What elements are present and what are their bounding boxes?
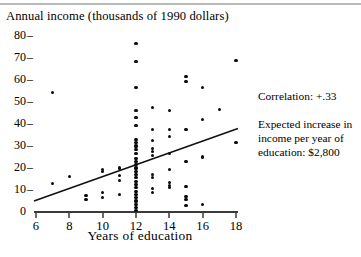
scatter-point [51, 91, 54, 94]
scatter-point [134, 42, 137, 45]
y-tick-dash: – [27, 72, 33, 87]
scatter-point [184, 160, 187, 163]
scatter-point [134, 152, 137, 155]
scatter-point [134, 60, 137, 63]
y-tick-dash: – [27, 28, 33, 43]
scatter-point [184, 128, 187, 131]
scatter-point [168, 168, 171, 171]
y-tick-label: 50 [2, 94, 26, 109]
y-tick-label: 10 [2, 182, 26, 197]
annotation-expected-increase: Expected increase in income per year of … [258, 117, 358, 160]
scatter-point [101, 191, 104, 194]
scatter-point [134, 124, 137, 127]
x-tick-label: 6 [24, 219, 48, 234]
y-tick-label: 70 [2, 50, 26, 65]
scatter-point [201, 155, 204, 158]
y-tick-dash: – [27, 160, 33, 175]
scatter-point [118, 166, 121, 169]
y-tick-label: 30 [2, 138, 26, 153]
x-axis-label: Years of education [60, 228, 220, 244]
scatter-point [134, 148, 137, 151]
scatter-point [134, 116, 137, 119]
y-tick-label: 40 [2, 116, 26, 131]
scatter-point [184, 75, 187, 78]
y-tick-dash: – [27, 94, 33, 109]
figure-scatter-plot: Annual income (thousands of 1990 dollars… [0, 0, 361, 257]
scatter-point [168, 128, 171, 131]
scatter-point [134, 209, 137, 212]
y-tick-dash: – [27, 138, 33, 153]
scatter-point [184, 185, 187, 188]
scatter-point [134, 86, 137, 89]
scatter-point [234, 59, 237, 62]
y-tick-label: 60 [2, 72, 26, 87]
x-tick-label: 18 [224, 219, 248, 234]
scatter-point [234, 141, 237, 144]
scatter-point [168, 135, 171, 138]
y-tick-label: 80 [2, 28, 26, 43]
scatter-point [118, 179, 121, 182]
y-tick-dash: – [27, 182, 33, 197]
annotation-correlation: Correlation: +.33 [258, 89, 337, 103]
scatter-point [84, 194, 87, 197]
scatter-point [151, 191, 154, 194]
scatter-point [184, 204, 187, 207]
y-tick-dash: – [27, 50, 33, 65]
y-tick-label: 0 [2, 204, 26, 219]
scatter-point [118, 193, 121, 196]
y-tick-dash: – [27, 116, 33, 131]
scatter-point [184, 80, 187, 83]
y-tick-label: 20 [2, 160, 26, 175]
